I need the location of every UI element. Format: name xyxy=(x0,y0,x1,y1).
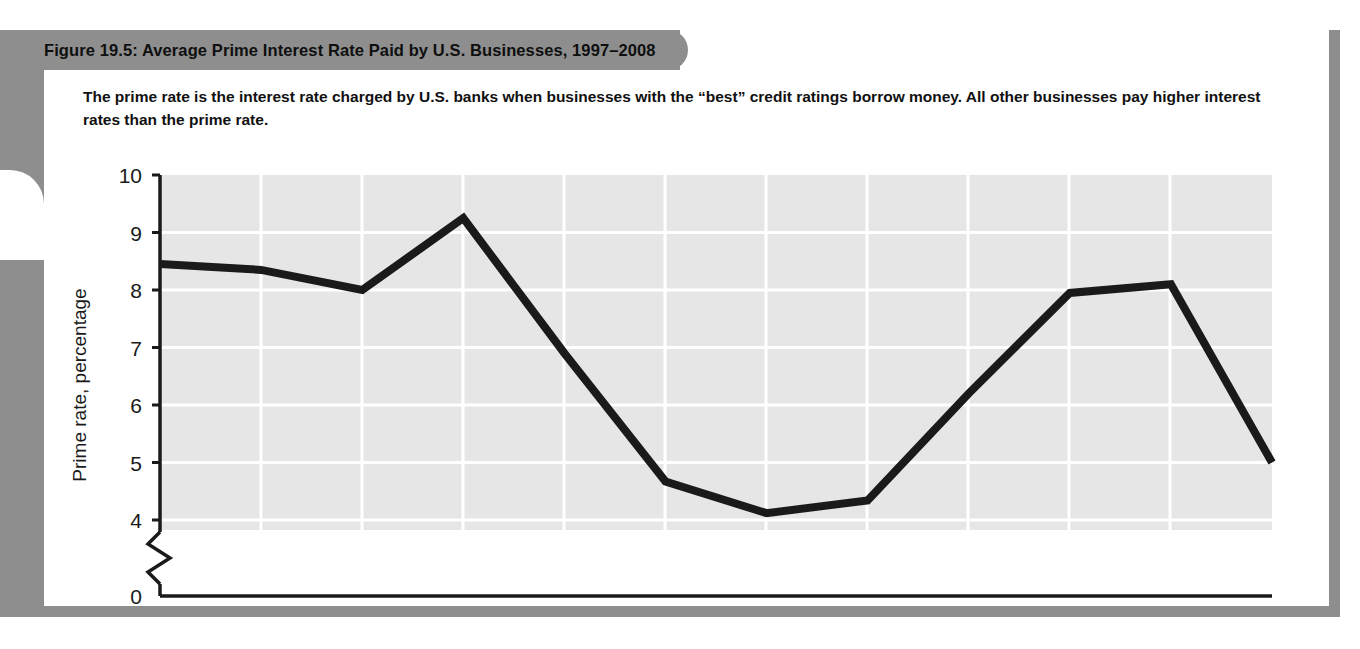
y-tick-label-9: 9 xyxy=(130,222,142,245)
x-tick-label-1999: 1999 xyxy=(339,607,386,610)
x-tick-label-2004: 2004 xyxy=(844,607,891,610)
chart-svg: 10 9 8 7 6 5 4 0 Prime rate, percentage … xyxy=(44,150,1334,610)
x-tick-label-2007: 2007 xyxy=(1147,607,1194,610)
y-tick-label-0: 0 xyxy=(130,585,142,608)
y-tick-label-6: 6 xyxy=(130,394,142,417)
y-tick-label-7: 7 xyxy=(130,337,142,360)
x-tick-label-2005: 2005 xyxy=(945,607,992,610)
y-axis-break-symbol xyxy=(148,532,170,584)
x-tick-label-2008: 2008 xyxy=(1249,607,1296,610)
y-tick-label-5: 5 xyxy=(130,452,142,475)
y-tick-label-10: 10 xyxy=(119,164,142,187)
x-tick-label-2006: 2006 xyxy=(1046,607,1093,610)
x-tick-label-2002: 2002 xyxy=(642,607,689,610)
x-tick-label-2001: 2001 xyxy=(541,607,588,610)
figure-container: Figure 19.5: Average Prime Interest Rate… xyxy=(0,0,1360,649)
frame-top-white-gap xyxy=(680,30,1340,70)
plot-background xyxy=(160,175,1272,530)
frame-left-notch xyxy=(0,170,44,260)
y-tick-label-8: 8 xyxy=(130,279,142,302)
frame-left-band xyxy=(0,30,44,617)
y-tick-label-4: 4 xyxy=(130,509,142,532)
y-axis-title: Prime rate, percentage xyxy=(69,288,90,481)
figure-caption: The prime rate is the interest rate char… xyxy=(83,85,1283,131)
x-tick-label-1997: 1997 xyxy=(137,607,184,610)
x-tick-label-2000: 2000 xyxy=(440,607,487,610)
x-tick-label-2003: 2003 xyxy=(743,607,790,610)
line-chart: 10 9 8 7 6 5 4 0 Prime rate, percentage … xyxy=(44,150,1334,610)
figure-title: Figure 19.5: Average Prime Interest Rate… xyxy=(44,36,664,64)
x-tick-label-1998: 1998 xyxy=(238,607,285,610)
